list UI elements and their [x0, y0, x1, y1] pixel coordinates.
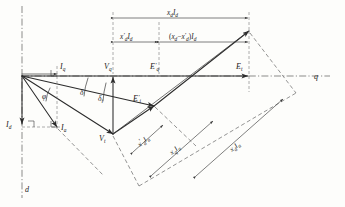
dimension-line-xq-Ia [152, 121, 213, 175]
construction-apex-to-right [250, 33, 296, 93]
label-Ia-sub: a [64, 127, 67, 133]
dimension-label-xd-minus-xdp-Id: (xd−x′d)Id [169, 31, 197, 42]
phasor-diagram-figure: q d Iq Vq E′q Et E [0, 0, 345, 207]
svg-text:xdId: xdId [166, 9, 178, 18]
right-angle-mark-Iq [51, 70, 57, 76]
label-Vq: Vq [104, 62, 112, 72]
angle-arc-delta-i [103, 83, 106, 101]
dim-xdpId-isub: d [130, 36, 133, 42]
angle-arc-phi [46, 88, 50, 101]
construction-bottom-right-rail [139, 93, 296, 186]
label-Id: Id [5, 120, 12, 130]
svg-text:E′q: E′q [149, 61, 159, 72]
svg-text:Ia: Ia [60, 123, 67, 133]
svg-text:Id: Id [5, 120, 12, 130]
dimension-label-xd-Ia: xdIa [227, 140, 242, 155]
phasor-Ia [22, 76, 57, 127]
label-Eq-prime: E′q [149, 61, 159, 72]
label-Et: Et [235, 62, 243, 72]
d-axis-label: d [25, 185, 30, 194]
label-Et-sub: t [241, 66, 243, 72]
angle-label-delta: δ [80, 88, 84, 97]
phasor-diagram-canvas: q d Iq Vq E′q Et E [0, 0, 345, 207]
construction-Vt-down [113, 136, 139, 186]
right-angle-mark-Id [28, 121, 34, 127]
dim-xdId-isub: d [175, 12, 178, 18]
dimension-line-xd-Ia [196, 99, 283, 176]
svg-text:Vt: Vt [99, 134, 106, 144]
svg-text:xqIa: xqIa [167, 143, 182, 158]
label-Ia: Ia [60, 123, 67, 133]
q-axis-label: q [314, 72, 318, 81]
dimension-label-xdp-Ia: x′dIa [134, 132, 152, 150]
dim-diff-isub: d [194, 36, 197, 42]
angle-label-delta-i: δi [98, 94, 104, 104]
svg-text:Iq: Iq [59, 62, 66, 72]
label-Vt: Vt [99, 134, 106, 144]
svg-text:x′dIa: x′dIa [134, 132, 152, 150]
svg-text:Vq: Vq [104, 62, 112, 72]
label-Iq-sub: q [63, 66, 66, 72]
svg-text:(xd−x′d)Id: (xd−x′d)Id [169, 31, 197, 42]
svg-text:E′i: E′i [132, 93, 141, 104]
svg-text:δi: δi [98, 94, 104, 104]
segment-Vt-to-elbow [113, 106, 154, 134]
svg-text:xdIa: xdIa [227, 140, 242, 155]
dimension-label-xdp-Id: x′dId [119, 31, 133, 42]
label-Vq-sub: q [109, 66, 112, 72]
svg-text:x′dId: x′dId [119, 31, 133, 42]
svg-text:Et: Et [235, 62, 243, 72]
construction-Ia-down-right [58, 129, 104, 176]
label-Iq: Iq [59, 62, 66, 72]
label-Id-sub: d [9, 124, 12, 130]
angle-arc-delta [84, 78, 88, 96]
label-Ei-prime: E′i [132, 93, 141, 104]
dimension-label-xd-Id: xdId [166, 9, 178, 18]
label-Vt-sub: t [104, 138, 106, 144]
dimension-label-xq-Ia: xqIa [167, 143, 182, 158]
phasor-Vt [22, 76, 113, 134]
angle-label-phi: φ [42, 92, 46, 101]
segment-Vt-to-apex [113, 31, 249, 134]
label-Eqp-sub: q [156, 66, 159, 72]
